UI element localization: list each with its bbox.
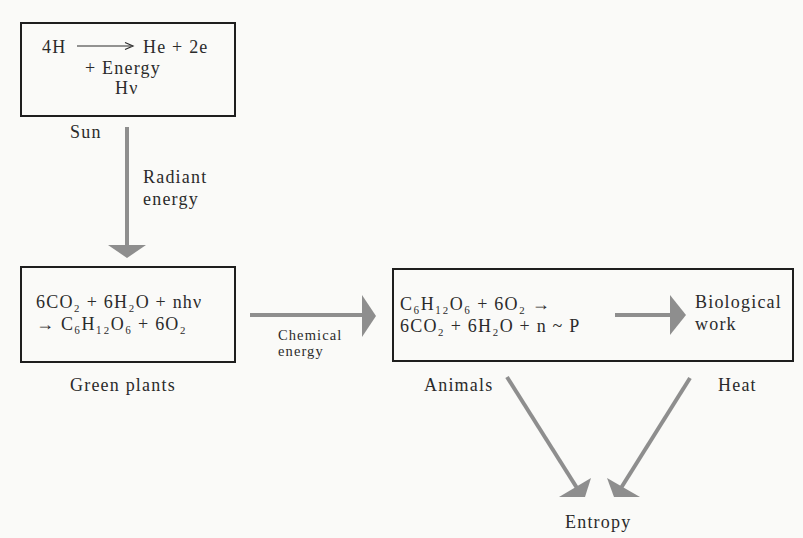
photosynthesis-line1: 6CO₂ + 6H₂O + nhν (36, 293, 202, 311)
sun-photon-term: Hν (115, 79, 139, 97)
heat-to-entropy-arrow-icon (607, 378, 690, 497)
green-plants-label: Green plants (70, 376, 176, 394)
photosynthesis-box: 6CO₂ + 6H₂O + nhν → C₆H₁₂O₆ + 6O₂ (20, 266, 236, 363)
radiant-energy-label-line2: energy (143, 190, 199, 208)
heat-label: Heat (718, 376, 757, 394)
sun-energy-term: + Energy (85, 59, 161, 77)
photosynthesis-line2: → C₆H₁₂O₆ + 6O₂ (36, 315, 187, 333)
radiant-energy-label-line1: Radiant (143, 168, 207, 186)
radiant-energy-arrow-icon (108, 127, 146, 258)
reaction-arrow-icon (77, 41, 135, 51)
chemical-energy-label-line2: energy (278, 344, 324, 359)
sun-reactant: 4H (42, 38, 66, 56)
chemical-energy-label-line1: Chemical (278, 328, 342, 343)
biological-work-line2: work (695, 315, 737, 333)
energy-flow-diagram: 4H He + 2e + Energy Hν Sun Radiant energ… (0, 0, 803, 538)
biological-work-line1: Biological (695, 293, 782, 311)
sun-label: Sun (70, 123, 102, 141)
respiration-line2: 6CO₂ + 6H₂O + n ~ P (400, 317, 580, 335)
animals-to-entropy-arrow-icon (507, 377, 591, 497)
respiration-line1: C₆H₁₂O₆ + 6O₂ → (400, 295, 551, 313)
sun-products: He + 2e (143, 38, 209, 56)
entropy-label: Entropy (565, 513, 631, 531)
work-arrow-icon (615, 295, 687, 337)
respiration-box: C₆H₁₂O₆ + 6O₂ → 6CO₂ + 6H₂O + n ~ P Biol… (392, 268, 794, 362)
animals-label: Animals (424, 376, 493, 394)
sun-reaction-box: 4H He + 2e + Energy Hν (20, 22, 236, 117)
